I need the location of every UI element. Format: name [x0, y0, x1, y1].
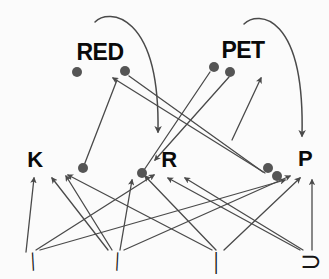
feature-to-letter-link-f1-to-k	[26, 178, 34, 252]
diagram-canvas: REDPET KRP /\|⊃	[0, 0, 329, 279]
letter-to-word-link-p-to-red	[113, 78, 265, 173]
word-node-pet: PET	[221, 39, 264, 62]
feature-to-letter-link-f2-to-p	[124, 176, 290, 250]
letter-node-p: P	[298, 148, 312, 170]
letter-to-word-link-red-to-p	[129, 76, 263, 172]
network-graphic	[0, 0, 329, 279]
feature-to-letter-link-f3-to-r	[145, 176, 216, 250]
feature-to-letter-link-f3-to-k	[68, 175, 212, 250]
inhibition-curves	[95, 16, 302, 136]
feature-mark-vertical-bar: |	[213, 248, 218, 274]
unit-dot-dot-red-right	[120, 66, 130, 76]
feature-to-letter-link-f2-to-kr	[66, 176, 112, 250]
unit-dot-dot-pet-left	[209, 62, 219, 72]
letter-node-k: K	[27, 149, 42, 171]
unit-dot-dot-pet-right	[225, 67, 235, 77]
unit-dot-dot-p-left	[263, 163, 273, 173]
unit-dot-dot-red-left	[72, 67, 82, 77]
letter-to-word-link-up-to-pet	[232, 78, 261, 140]
word-node-red: RED	[76, 41, 123, 64]
unit-dot-dot-r-left	[137, 168, 147, 178]
unit-dot-dot-p-left2	[272, 171, 282, 181]
feature-to-letter-link-mid-to-r	[120, 180, 132, 250]
letter-node-r: R	[161, 149, 176, 171]
feature-to-letter-link-f1-to-r	[36, 175, 154, 250]
feature-to-letter-link-f1-to-p	[40, 180, 285, 250]
unit-dot-dot-k-right	[78, 163, 88, 173]
feature-to-letter-link-f4-to-r	[168, 178, 300, 250]
feature-to-letter-link-f4-to-r2	[185, 178, 303, 250]
letter-to-word-link-k-to-red	[83, 80, 117, 168]
feature-mark-right-bracket: ⊃	[300, 249, 322, 275]
